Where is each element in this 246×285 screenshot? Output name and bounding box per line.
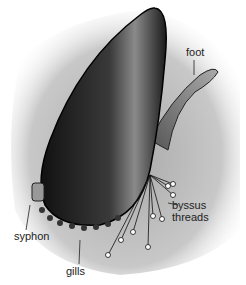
label-syphon: syphon: [14, 230, 49, 242]
label-foot: foot: [186, 46, 204, 58]
mussel-diagram: foot byssus threads syphon gills: [0, 0, 246, 285]
label-gills: gills: [66, 265, 85, 277]
label-threads: threads: [172, 211, 209, 223]
mussel-illustration: [0, 0, 246, 285]
syphon-shape: [32, 183, 44, 201]
label-byssus: byssus: [172, 199, 206, 211]
